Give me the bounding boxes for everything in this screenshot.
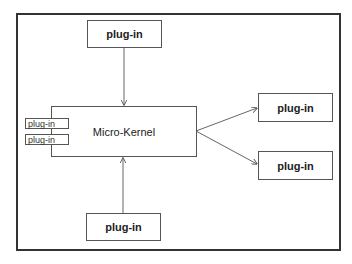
plugin-top-label: plug-in: [106, 28, 143, 40]
arrow-kernel-to-right-top: [196, 108, 257, 131]
plugin-top: plug-in: [87, 20, 162, 48]
arrow-kernel-to-right-bottom: [196, 131, 257, 164]
plugin-right-top: plug-in: [258, 93, 333, 122]
plugin-right-bottom-label: plug-in: [277, 160, 314, 172]
plugin-right-top-label: plug-in: [277, 102, 314, 114]
plugin-right-bottom: plug-in: [258, 151, 333, 180]
plugin-left-top: plug-in: [25, 118, 69, 129]
plugin-bottom: plug-in: [86, 213, 161, 241]
plugin-bottom-label: plug-in: [105, 221, 142, 233]
micro-kernel: Micro-Kernel: [51, 106, 197, 157]
plugin-left-bottom: plug-in: [25, 134, 69, 145]
plugin-left-bottom-label: plug-in: [28, 135, 55, 145]
plugin-left-top-label: plug-in: [28, 119, 55, 129]
micro-kernel-label: Micro-Kernel: [93, 126, 155, 138]
